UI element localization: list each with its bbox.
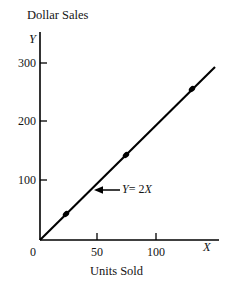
chart-plot-area	[0, 0, 233, 289]
annotation-arrow-head	[94, 186, 103, 194]
chart-figure: Dollar Sales Y X 300 200 100 0 50 100 Y=…	[0, 0, 233, 289]
